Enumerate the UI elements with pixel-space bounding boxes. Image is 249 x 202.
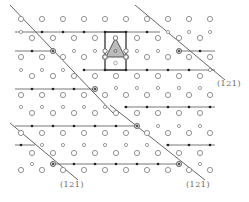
large-atom-circle [39, 92, 44, 97]
cell-atom-circle [103, 55, 107, 59]
large-atom-circle [113, 150, 118, 155]
large-atom-circle [134, 150, 139, 155]
small-atom-circle [156, 49, 159, 52]
large-atom-circle [92, 150, 97, 155]
large-atom-circle [176, 150, 181, 155]
solid-atom-dot [73, 163, 76, 166]
ringed-atom-core [52, 163, 54, 165]
plane-label-right: (121) [217, 79, 241, 88]
plane-label-bottom-right: (121) [186, 180, 210, 189]
solid-atom-dot [115, 163, 118, 166]
large-atom-circle [155, 110, 160, 115]
solid-atom-dot [209, 144, 212, 147]
large-atom-circle [60, 167, 65, 172]
solid-atom-dot [188, 144, 191, 147]
small-atom-circle [82, 105, 85, 108]
solid-atom-dot [83, 31, 86, 34]
solid-atom-dot [167, 106, 170, 109]
small-atom-circle [135, 86, 138, 89]
large-atom-circle [18, 54, 23, 59]
large-atom-circle [60, 92, 65, 97]
large-atom-circle [39, 16, 44, 21]
small-atom-circle [124, 143, 127, 146]
solid-atom-dot [188, 69, 191, 72]
solid-atom-dot [167, 69, 170, 72]
solid-atom-dot [146, 31, 149, 34]
small-atom-circle [40, 105, 43, 108]
ringed-atom-core [178, 163, 180, 165]
ringed-atom-core [52, 50, 54, 52]
large-atom-circle [92, 35, 97, 40]
solid-atom-dot [125, 69, 128, 72]
large-atom-circle [134, 110, 139, 115]
large-atom-circle [165, 16, 170, 21]
small-atom-circle [114, 86, 117, 89]
solid-atom-dot [125, 31, 128, 34]
plane-label-bottom-left: (121) [60, 180, 84, 189]
solid-atom-dot [125, 106, 128, 109]
small-atom-circle [82, 143, 85, 146]
large-atom-circle [71, 110, 76, 115]
small-atom-circle [156, 124, 159, 127]
small-atom-circle [208, 68, 211, 71]
solid-atom-dot [115, 125, 118, 128]
large-atom-circle [113, 110, 118, 115]
large-atom-circle [18, 130, 23, 135]
large-atom-circle [29, 35, 34, 40]
cell-atom-circle [124, 55, 128, 59]
small-atom-circle [198, 124, 201, 127]
solid-atom-dot [94, 163, 97, 166]
large-atom-circle [102, 130, 107, 135]
large-atom-circle [50, 110, 55, 115]
solid-atom-dot [136, 163, 139, 166]
solid-atom-dot [209, 106, 212, 109]
large-atom-circle [165, 54, 170, 59]
large-atom-circle [155, 35, 160, 40]
large-atom-circle [123, 16, 128, 21]
large-atom-circle [60, 130, 65, 135]
large-atom-circle [39, 130, 44, 135]
large-atom-circle [71, 73, 76, 78]
large-atom-circle [186, 167, 191, 172]
large-atom-circle [92, 73, 97, 78]
ringed-atom-core [178, 50, 180, 52]
small-atom-circle [72, 49, 75, 52]
small-atom-circle [187, 30, 190, 33]
large-atom-circle [81, 92, 86, 97]
large-atom-circle [176, 110, 181, 115]
small-atom-circle [177, 124, 180, 127]
ringed-atom-core [94, 88, 96, 90]
large-atom-circle [81, 130, 86, 135]
large-atom-circle [18, 167, 23, 172]
cell-atom-circle [124, 49, 128, 53]
large-atom-circle [144, 16, 149, 21]
ringed-atom-core [136, 125, 138, 127]
large-atom-circle [207, 92, 212, 97]
solid-atom-dot [31, 125, 34, 128]
large-atom-circle [123, 167, 128, 172]
large-atom-circle [39, 54, 44, 59]
small-atom-circle [19, 68, 22, 71]
large-atom-circle [92, 110, 97, 115]
large-atom-circle [50, 73, 55, 78]
large-atom-circle [207, 167, 212, 172]
small-atom-circle [103, 143, 106, 146]
solid-atom-dot [73, 88, 76, 91]
small-atom-circle [145, 143, 148, 146]
large-atom-circle [50, 150, 55, 155]
large-atom-circle [102, 92, 107, 97]
solid-atom-dot [31, 88, 34, 91]
large-atom-circle [71, 150, 76, 155]
lattice-svg [0, 0, 249, 202]
small-atom-circle [19, 30, 22, 33]
large-atom-circle [186, 92, 191, 97]
solid-atom-dot [146, 69, 149, 72]
large-atom-circle [207, 130, 212, 135]
large-atom-circle [144, 130, 149, 135]
large-atom-circle [134, 73, 139, 78]
solid-atom-dot [52, 125, 55, 128]
solid-atom-dot [73, 125, 76, 128]
plane-trace-line [135, 5, 225, 80]
large-atom-circle [144, 54, 149, 59]
solid-atom-dot [52, 88, 55, 91]
